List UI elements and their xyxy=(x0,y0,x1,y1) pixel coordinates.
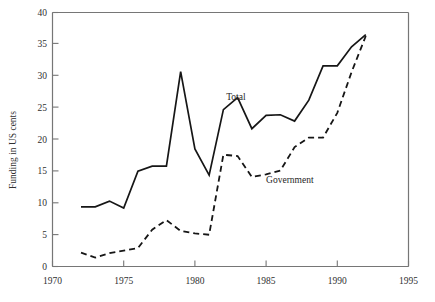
series-line-government xyxy=(81,36,366,258)
x-tick-label-1985: 1985 xyxy=(257,276,276,286)
x-tick-label-1975: 1975 xyxy=(114,276,133,286)
y-tick-label-0: 0 xyxy=(42,262,47,272)
y-tick-label-15: 15 xyxy=(38,166,48,176)
chart-figure: 0 5 10 15 20 25 30 35 40 1970 1975 1980 … xyxy=(0,0,435,302)
series-label-total: Total xyxy=(226,92,246,102)
x-tick-label-1990: 1990 xyxy=(328,276,347,286)
series-label-government: Government xyxy=(266,175,314,185)
y-tick-label-10: 10 xyxy=(38,198,48,208)
y-tick-label-40: 40 xyxy=(38,8,48,18)
y-tick-label-30: 30 xyxy=(38,71,48,81)
y-axis-title: Funding in US cents xyxy=(8,111,18,189)
y-axis-tick-labels: 0 5 10 15 20 25 30 35 40 xyxy=(38,8,48,272)
series-line-total xyxy=(81,35,366,208)
line-chart: 0 5 10 15 20 25 30 35 40 1970 1975 1980 … xyxy=(0,0,435,302)
x-tick-label-1980: 1980 xyxy=(185,276,204,286)
x-tick-label-1995: 1995 xyxy=(399,276,418,286)
y-tick-label-20: 20 xyxy=(38,135,48,145)
x-axis-tick-labels: 1970 1975 1980 1985 1990 1995 xyxy=(43,276,418,286)
x-axis-ticks xyxy=(53,261,409,267)
x-tick-label-1970: 1970 xyxy=(43,276,62,286)
y-tick-label-25: 25 xyxy=(38,103,48,113)
y-tick-label-35: 35 xyxy=(38,39,48,49)
y-axis-ticks xyxy=(53,13,59,267)
y-tick-label-5: 5 xyxy=(42,230,47,240)
